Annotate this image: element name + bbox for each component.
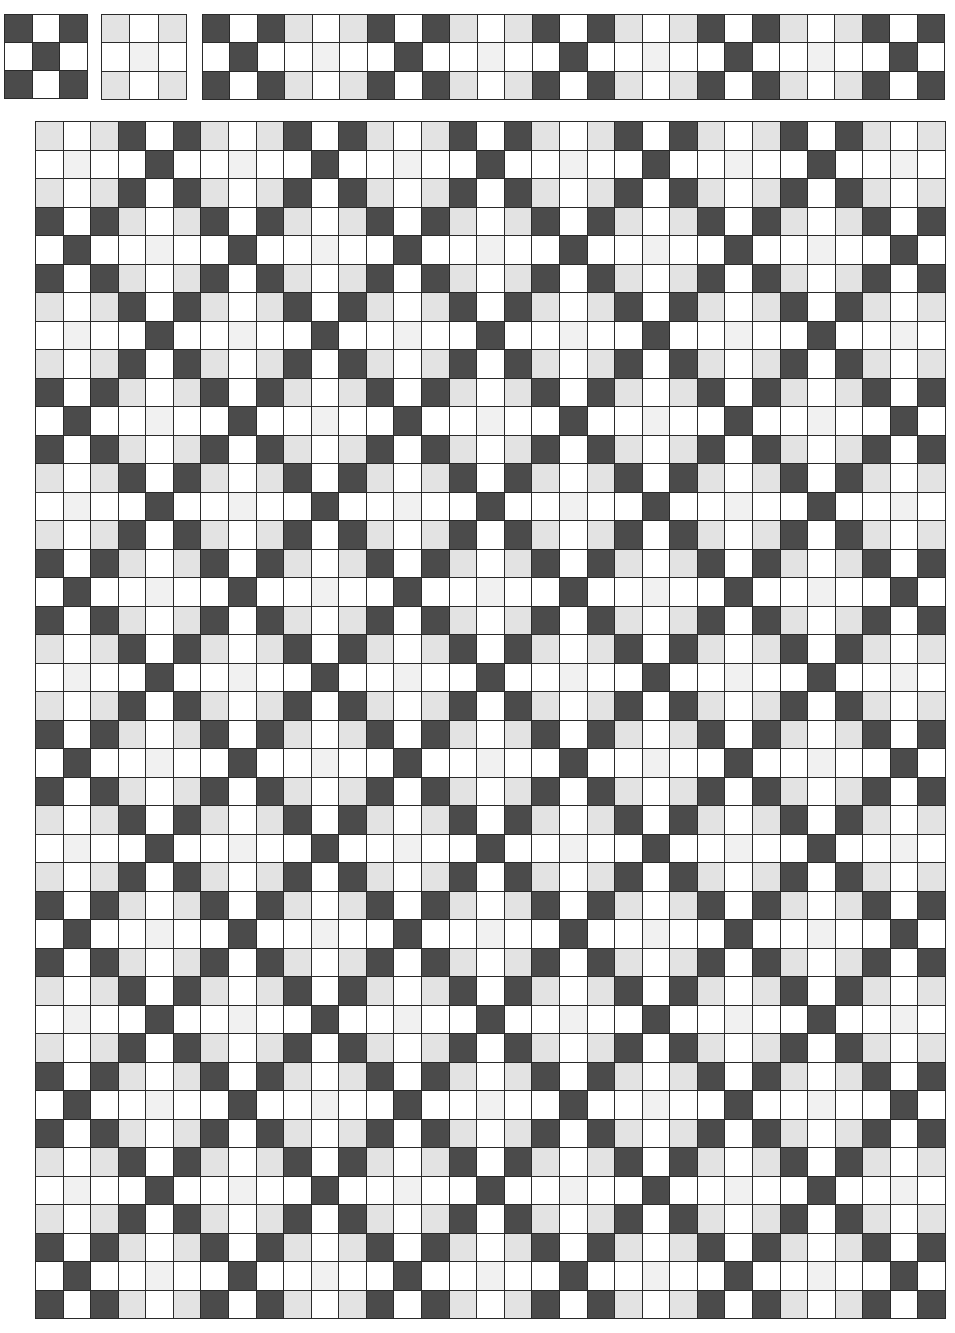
grid-cell [284,578,311,606]
grid-cell [836,236,863,264]
grid-cell [450,835,477,863]
grid-cell [91,265,118,293]
grid-cell [394,493,421,521]
grid-cell [257,892,284,920]
grid-cell [477,977,504,1005]
grid-cell [36,749,63,777]
grid-cell [781,1291,808,1319]
grid-cell [422,607,449,635]
grid-cell [450,721,477,749]
grid-cell [615,607,642,635]
grid-cell [284,1063,311,1091]
grid-cell [36,1034,63,1062]
grid-cell [367,550,394,578]
grid-cell [863,293,890,321]
grid-cell [102,72,129,99]
grid-cell [477,1091,504,1119]
threading-block [4,14,88,99]
grid-cell [588,407,615,435]
grid-cell [146,692,173,720]
grid-cell [257,265,284,293]
grid-cell [257,664,284,692]
grid-cell [339,692,366,720]
grid-cell [284,350,311,378]
grid-cell [836,1006,863,1034]
grid-cell [532,179,559,207]
grid-cell [284,436,311,464]
grid-cell [891,122,918,150]
grid-cell [588,892,615,920]
grid-cell [91,721,118,749]
grid-cell [753,977,780,1005]
grid-cell [174,835,201,863]
grid-cell [146,1091,173,1119]
grid-cell [91,607,118,635]
grid-cell [863,806,890,834]
grid-cell [670,379,697,407]
grid-cell [836,835,863,863]
grid-cell [229,949,256,977]
grid-cell [422,407,449,435]
grid-cell [174,1291,201,1319]
grid-cell [477,1262,504,1290]
grid-cell [863,778,890,806]
grid-cell [36,1262,63,1290]
grid-cell [643,778,670,806]
grid-cell [394,122,421,150]
grid-cell [64,721,91,749]
grid-cell [5,15,32,42]
grid-cell [450,1006,477,1034]
grid-cell [477,1177,504,1205]
grid-cell [394,949,421,977]
grid-cell [560,721,587,749]
grid-cell [477,1006,504,1034]
grid-cell [119,1063,146,1091]
grid-cell [201,407,228,435]
grid-cell [146,179,173,207]
grid-cell [174,1177,201,1205]
grid-cell [698,493,725,521]
grid-cell [698,607,725,635]
grid-cell [505,15,531,42]
grid-cell [312,635,339,663]
grid-cell [725,1262,752,1290]
grid-cell [863,550,890,578]
grid-cell [891,977,918,1005]
grid-cell [201,464,228,492]
grid-cell [477,322,504,350]
grid-cell [230,15,256,42]
grid-cell [670,949,697,977]
grid-cell [725,379,752,407]
grid-cell [284,1091,311,1119]
grid-cell [91,493,118,521]
grid-cell [891,151,918,179]
grid-cell [339,1234,366,1262]
grid-cell [146,1063,173,1091]
grid-cell [588,1177,615,1205]
grid-cell [119,407,146,435]
grid-cell [532,1262,559,1290]
grid-cell [201,635,228,663]
grid-cell [64,692,91,720]
grid-cell [698,293,725,321]
grid-cell [725,322,752,350]
grid-cell [368,43,394,70]
grid-cell [808,1091,835,1119]
grid-cell [560,607,587,635]
grid-cell [643,1148,670,1176]
grid-cell [505,43,531,70]
grid-cell [257,493,284,521]
grid-cell [477,493,504,521]
grid-cell [698,778,725,806]
grid-cell [891,721,918,749]
grid-cell [5,43,32,70]
grid-cell [698,265,725,293]
grid-cell [781,778,808,806]
grid-cell [367,1234,394,1262]
grid-cell [229,1120,256,1148]
grid-cell [588,1034,615,1062]
grid-cell [339,721,366,749]
grid-cell [174,1148,201,1176]
grid-cell [174,407,201,435]
grid-cell [808,749,835,777]
